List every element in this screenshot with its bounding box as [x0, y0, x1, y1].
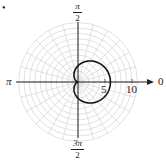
angle-label-pi-over-2: π 2 — [73, 2, 82, 23]
bullet-marker: • — [2, 3, 6, 13]
angle-label-pi: π — [6, 76, 12, 87]
angle-label-top-num: π — [75, 2, 80, 11]
angle-label-top-den: 2 — [75, 14, 80, 23]
polar-plot — [0, 0, 166, 162]
angle-label-bottom-num: 3π — [73, 139, 82, 148]
radial-tick-10: 10 — [126, 84, 137, 95]
angle-label-bottom-den: 2 — [75, 151, 80, 160]
angle-label-3pi-over-2: 3π 2 — [71, 139, 84, 160]
radial-tick-5: 5 — [101, 84, 107, 95]
angle-label-0: 0 — [158, 76, 164, 87]
